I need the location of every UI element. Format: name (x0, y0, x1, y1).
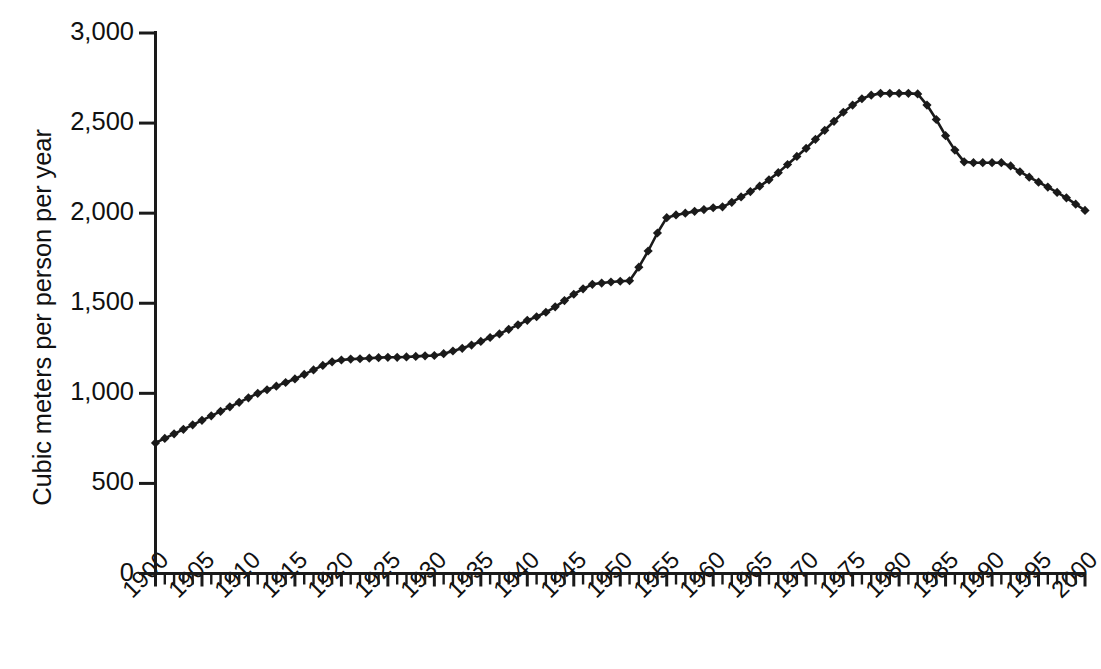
data-point-marker (671, 210, 680, 219)
data-point-marker (402, 352, 411, 361)
plot-area (0, 0, 1101, 669)
data-point-marker (904, 89, 913, 98)
data-point-marker (197, 416, 206, 425)
x-axis-minor-ticks (156, 574, 1086, 587)
data-point-marker (997, 158, 1006, 167)
data-point-marker (718, 202, 727, 211)
data-point-marker (383, 353, 392, 362)
data-point-marker (300, 370, 309, 379)
data-point-marker (225, 402, 234, 411)
data-point-marker (411, 352, 420, 361)
data-point-marker (513, 320, 522, 329)
data-point-marker (597, 278, 606, 287)
axes (139, 31, 1086, 574)
data-point-marker (281, 378, 290, 387)
data-point-marker (588, 280, 597, 289)
data-point-marker (430, 351, 439, 360)
data-point-marker (987, 158, 996, 167)
data-point-marker (393, 353, 402, 362)
data-point-marker (272, 382, 281, 391)
data-point-marker (895, 89, 904, 98)
y-axis-major-ticks (139, 33, 156, 574)
data-point-marker (699, 205, 708, 214)
data-point-marker (253, 389, 262, 398)
data-point-marker (328, 357, 337, 366)
data-point-marker (606, 277, 615, 286)
data-point-marker (235, 398, 244, 407)
data-point-marker (532, 312, 541, 321)
data-point-marker (978, 158, 987, 167)
data-point-marker (616, 277, 625, 286)
data-point-marker (439, 349, 448, 358)
data-point-marker (420, 351, 429, 360)
data-point-marker (476, 337, 485, 346)
data-point-marker (448, 346, 457, 355)
data-point-marker (458, 344, 467, 353)
data-point-marker (969, 158, 978, 167)
data-point-marker (309, 365, 318, 374)
data-point-marker (169, 429, 178, 438)
line-chart-figure: Cubic meters per person per year 05001,0… (0, 0, 1101, 669)
data-point-marker (216, 407, 225, 416)
data-point-marker (346, 355, 355, 364)
data-point-marker (374, 353, 383, 362)
data-point-marker (318, 361, 327, 370)
data-point-marker (709, 203, 718, 212)
data-point-marker (290, 374, 299, 383)
data-point-marker (681, 209, 690, 218)
data-point-marker (876, 89, 885, 98)
data-point-marker (160, 434, 169, 443)
data-point-marker (151, 438, 160, 447)
data-point-marker (262, 385, 271, 394)
data-point-marker (244, 393, 253, 402)
data-point-marker (179, 425, 188, 434)
data-point-marker (188, 420, 197, 429)
data-point-marker (355, 354, 364, 363)
data-point-marker (690, 207, 699, 216)
data-point-marker (885, 89, 894, 98)
series-line (156, 93, 1086, 443)
data-point-marker (504, 325, 513, 334)
data-point-marker (337, 355, 346, 364)
data-point-marker (467, 340, 476, 349)
data-series-group (151, 89, 1090, 448)
data-point-marker (495, 329, 504, 338)
data-point-marker (365, 354, 374, 363)
data-point-marker (867, 91, 876, 100)
data-point-marker (486, 333, 495, 342)
data-point-marker (523, 316, 532, 325)
data-point-marker (207, 411, 216, 420)
